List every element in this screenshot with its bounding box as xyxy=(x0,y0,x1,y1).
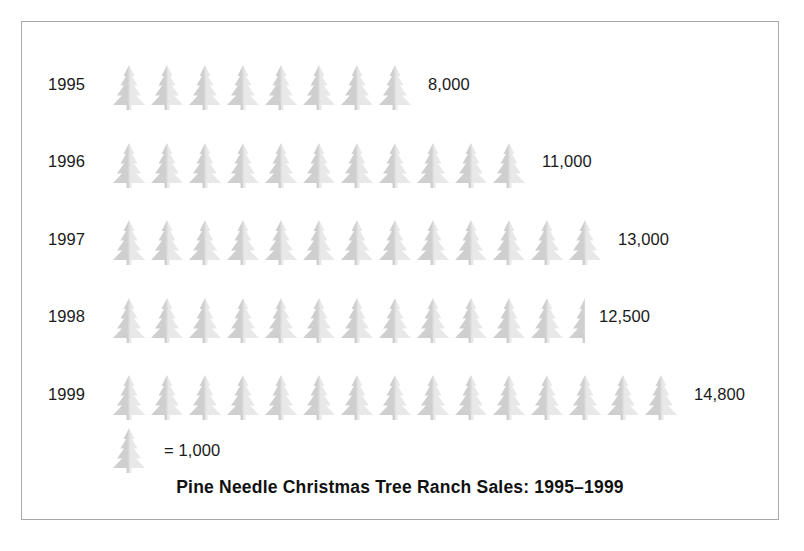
row-value-label: 11,000 xyxy=(542,152,592,171)
row-year-label: 1996 xyxy=(48,152,110,171)
christmas-tree-icon xyxy=(224,142,262,188)
christmas-tree-icon xyxy=(186,219,224,265)
christmas-tree-icon xyxy=(338,64,376,110)
christmas-tree-icon xyxy=(490,374,528,420)
row-value-label: 13,000 xyxy=(618,230,669,249)
christmas-tree-icon xyxy=(452,142,490,188)
christmas-tree-icon xyxy=(148,297,186,343)
christmas-tree-icon xyxy=(338,297,376,343)
christmas-tree-icon xyxy=(452,374,490,420)
christmas-tree-icon xyxy=(110,427,148,473)
pictograph-row: 19958,000 xyxy=(22,58,778,110)
christmas-tree-icon xyxy=(148,219,186,265)
christmas-tree-icon xyxy=(566,374,604,420)
christmas-tree-icon xyxy=(110,142,148,188)
christmas-tree-icon xyxy=(262,64,300,110)
christmas-tree-icon xyxy=(300,374,338,420)
christmas-tree-icon xyxy=(148,64,186,110)
christmas-tree-icon xyxy=(642,374,680,420)
christmas-tree-icon xyxy=(414,374,452,420)
christmas-tree-icon xyxy=(110,374,148,420)
christmas-tree-icon xyxy=(300,142,338,188)
christmas-tree-icon xyxy=(262,219,300,265)
christmas-tree-icon xyxy=(376,297,414,343)
row-icon-group xyxy=(110,213,604,265)
christmas-tree-icon xyxy=(300,297,338,343)
christmas-tree-icon xyxy=(490,219,528,265)
christmas-tree-icon xyxy=(262,142,300,188)
christmas-tree-icon xyxy=(376,374,414,420)
christmas-tree-icon xyxy=(224,219,262,265)
row-icon-group xyxy=(110,58,414,110)
christmas-tree-icon xyxy=(300,64,338,110)
christmas-tree-icon xyxy=(186,142,224,188)
christmas-tree-icon xyxy=(376,64,414,110)
christmas-tree-icon xyxy=(224,64,262,110)
christmas-tree-icon xyxy=(528,297,566,343)
christmas-tree-icon xyxy=(186,297,224,343)
christmas-tree-icon xyxy=(338,142,376,188)
row-year-label: 1997 xyxy=(48,230,110,249)
row-value-label: 12,500 xyxy=(599,307,650,326)
christmas-tree-icon xyxy=(376,142,414,188)
legend-label: = 1,000 xyxy=(164,441,220,460)
christmas-tree-icon xyxy=(148,374,186,420)
christmas-tree-icon xyxy=(224,374,262,420)
christmas-tree-icon xyxy=(490,142,528,188)
row-year-label: 1995 xyxy=(48,75,110,94)
christmas-tree-icon xyxy=(528,219,566,265)
christmas-tree-icon xyxy=(262,297,300,343)
christmas-tree-icon xyxy=(110,219,148,265)
pictograph-row: 199914,800 xyxy=(22,368,778,420)
christmas-tree-half-icon xyxy=(566,297,585,343)
christmas-tree-icon xyxy=(300,219,338,265)
chart-title: Pine Needle Christmas Tree Ranch Sales: … xyxy=(22,477,778,498)
row-icon-group xyxy=(110,368,680,420)
christmas-tree-icon xyxy=(262,374,300,420)
christmas-tree-icon xyxy=(110,64,148,110)
christmas-tree-icon xyxy=(452,297,490,343)
row-value-label: 8,000 xyxy=(428,75,470,94)
christmas-tree-icon xyxy=(148,142,186,188)
christmas-tree-icon xyxy=(110,297,148,343)
row-year-label: 1998 xyxy=(48,307,110,326)
row-value-label: 14,800 xyxy=(694,385,745,404)
christmas-tree-icon xyxy=(566,219,604,265)
chart-legend: = 1,000 xyxy=(110,427,220,473)
christmas-tree-icon xyxy=(414,297,452,343)
christmas-tree-icon xyxy=(452,219,490,265)
row-icon-group xyxy=(110,291,585,343)
christmas-tree-icon xyxy=(414,219,452,265)
christmas-tree-icon xyxy=(224,297,262,343)
christmas-tree-icon xyxy=(604,374,642,420)
christmas-tree-icon xyxy=(338,374,376,420)
row-year-label: 1999 xyxy=(48,385,110,404)
christmas-tree-icon xyxy=(186,374,224,420)
chart-frame: 19958,000199611,000199713,000199812,5001… xyxy=(21,21,779,520)
christmas-tree-icon xyxy=(528,374,566,420)
pictograph-row: 199713,000 xyxy=(22,213,778,265)
christmas-tree-icon xyxy=(186,64,224,110)
christmas-tree-icon xyxy=(376,219,414,265)
pictograph-row: 199611,000 xyxy=(22,136,778,188)
christmas-tree-icon xyxy=(490,297,528,343)
pictograph-row: 199812,500 xyxy=(22,291,778,343)
christmas-tree-icon xyxy=(414,142,452,188)
row-icon-group xyxy=(110,136,528,188)
christmas-tree-icon xyxy=(338,219,376,265)
